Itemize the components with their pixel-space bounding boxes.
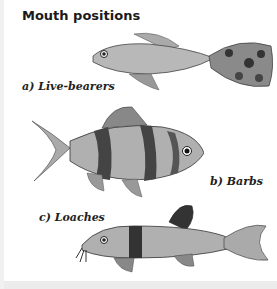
live-bearer-fish-illustration xyxy=(89,28,274,98)
bottom-band xyxy=(4,281,277,289)
barb-fish-illustration xyxy=(32,103,204,198)
label-barbs: b) Barbs xyxy=(210,175,263,188)
label-loaches: c) Loaches xyxy=(39,211,105,224)
label-live-bearers: a) Live-bearers xyxy=(22,80,115,93)
page: Mouth positions a) Live-bearers b) Barbs xyxy=(0,0,277,289)
page-title: Mouth positions xyxy=(22,8,140,23)
